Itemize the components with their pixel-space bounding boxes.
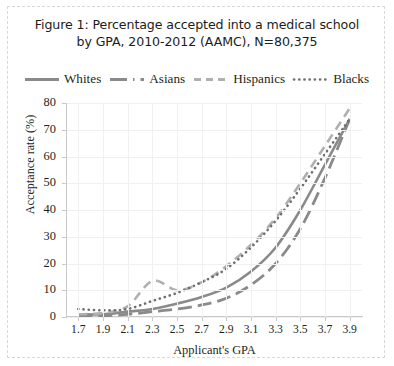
y-tick-mark bbox=[62, 290, 67, 291]
figure-title-line-2: by GPA, 2010-2012 (AAMC), N=80,375 bbox=[8, 33, 386, 50]
gridlines bbox=[66, 103, 362, 317]
x-axis-label: Applicant's GPA bbox=[66, 343, 363, 358]
gridline-vertical bbox=[325, 103, 326, 317]
legend-label-whites: Whites bbox=[64, 71, 101, 87]
x-tick-mark bbox=[177, 317, 178, 321]
plot-area bbox=[66, 103, 362, 317]
legend-key-dash-dot-icon bbox=[110, 74, 144, 85]
y-tick-mark bbox=[62, 237, 67, 238]
y-tick-mark bbox=[62, 264, 67, 265]
gridline-vertical bbox=[78, 103, 79, 317]
x-tick-mark bbox=[300, 317, 301, 321]
y-tick-mark bbox=[62, 210, 67, 211]
gridline-horizontal bbox=[66, 210, 362, 211]
gridline-vertical bbox=[300, 103, 301, 317]
gridline-horizontal bbox=[66, 183, 362, 184]
y-tick-mark bbox=[62, 103, 67, 104]
gridline-vertical bbox=[103, 103, 104, 317]
legend-item-blacks: Blacks bbox=[294, 71, 369, 87]
legend-key-dashed-icon bbox=[194, 74, 228, 85]
y-tick-label: 0 bbox=[22, 309, 56, 324]
y-tick-label: 30 bbox=[22, 229, 56, 244]
gridline-horizontal bbox=[66, 290, 362, 291]
y-tick-label: 20 bbox=[22, 256, 56, 271]
gridline-horizontal bbox=[66, 264, 362, 265]
x-tick-mark bbox=[78, 317, 79, 321]
gridline-horizontal bbox=[66, 157, 362, 158]
legend-key-solid-icon bbox=[25, 74, 59, 85]
gridline-vertical bbox=[276, 103, 277, 317]
y-tick-mark bbox=[62, 183, 67, 184]
x-tick-label: 3.9 bbox=[335, 323, 365, 336]
figure-container: Figure 1: Percentage accepted into a med… bbox=[7, 6, 385, 358]
gridline-horizontal bbox=[66, 103, 362, 104]
y-tick-mark bbox=[62, 157, 67, 158]
x-tick-mark bbox=[128, 317, 129, 321]
gridline-horizontal bbox=[66, 317, 362, 318]
chart-legend: Whites Asians Hispanics Blacks bbox=[8, 70, 386, 88]
x-tick-mark bbox=[152, 317, 153, 321]
gridline-vertical bbox=[152, 103, 153, 317]
gridline-vertical bbox=[202, 103, 203, 317]
y-tick-mark bbox=[62, 317, 67, 318]
x-tick-mark bbox=[226, 317, 227, 321]
gridline-vertical bbox=[350, 103, 351, 317]
figure-title-line-1: Figure 1: Percentage accepted into a med… bbox=[8, 16, 386, 33]
figure-title: Figure 1: Percentage accepted into a med… bbox=[8, 16, 386, 50]
legend-label-blacks: Blacks bbox=[333, 71, 369, 87]
x-tick-mark bbox=[350, 317, 351, 321]
legend-label-hispanics: Hispanics bbox=[233, 71, 285, 87]
gridline-vertical bbox=[128, 103, 129, 317]
gridline-horizontal bbox=[66, 237, 362, 238]
legend-item-asians: Asians bbox=[110, 71, 185, 87]
x-tick-mark bbox=[202, 317, 203, 321]
y-tick-mark bbox=[62, 130, 67, 131]
gridline-vertical bbox=[226, 103, 227, 317]
gridline-vertical bbox=[251, 103, 252, 317]
gridline-vertical bbox=[177, 103, 178, 317]
x-tick-mark bbox=[103, 317, 104, 321]
gridline-horizontal bbox=[66, 130, 362, 131]
legend-label-asians: Asians bbox=[149, 71, 185, 87]
legend-item-hispanics: Hispanics bbox=[194, 71, 285, 87]
legend-item-whites: Whites bbox=[25, 71, 101, 87]
legend-key-dotted-icon bbox=[294, 74, 328, 85]
y-axis-label: Acceptance rate (%) bbox=[23, 100, 38, 230]
x-tick-mark bbox=[325, 317, 326, 321]
x-tick-mark bbox=[276, 317, 277, 321]
x-tick-mark bbox=[251, 317, 252, 321]
y-tick-label: 10 bbox=[22, 282, 56, 297]
